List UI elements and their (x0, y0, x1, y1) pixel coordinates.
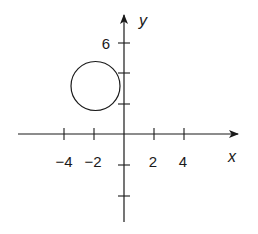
y-tick-label-6: 6 (102, 35, 110, 52)
x-tick-label-2: 2 (149, 153, 157, 170)
x-tick-label-neg2: −2 (84, 153, 101, 170)
x-tick-label-4: 4 (179, 153, 187, 170)
circle-shape (71, 62, 120, 111)
x-tick-label-neg4: −4 (55, 153, 72, 170)
x-axis-label: x (227, 148, 237, 165)
y-axis-label: y (138, 12, 148, 29)
coordinate-plane: −4 −2 2 4 6 x y (0, 0, 258, 234)
